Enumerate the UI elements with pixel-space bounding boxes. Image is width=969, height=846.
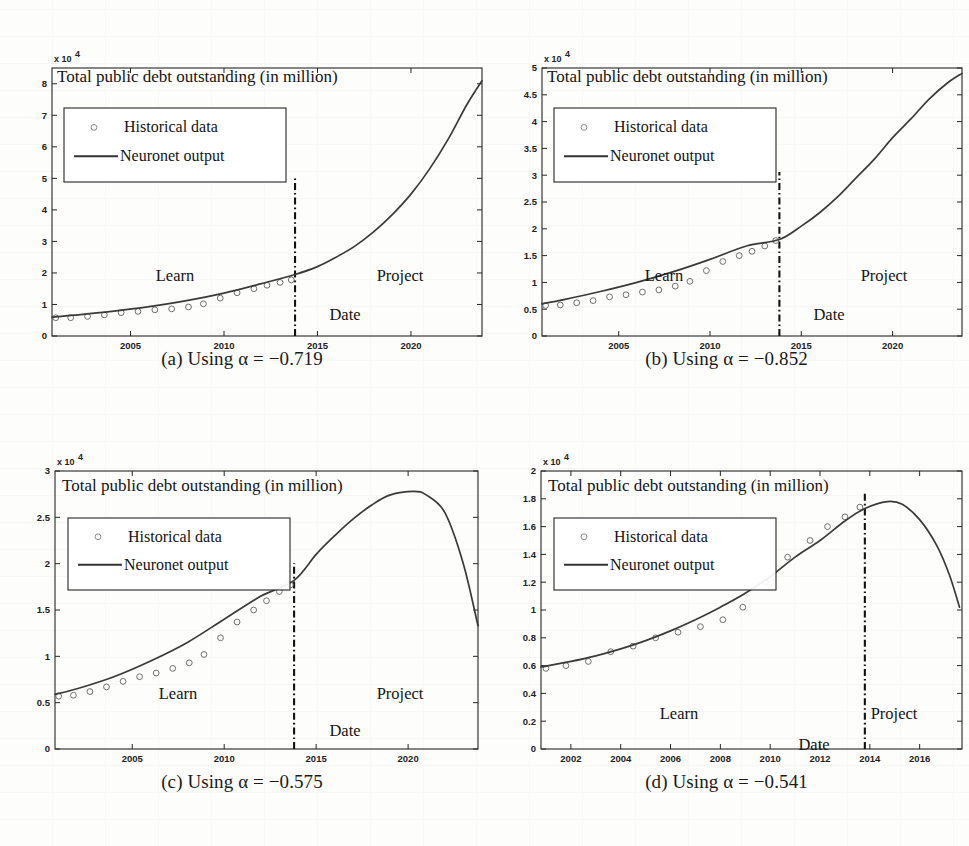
svg-text:4: 4: [78, 452, 83, 462]
data-point: [675, 629, 681, 635]
legend-label-neuronet: Neuronet output: [120, 147, 225, 165]
x-tick-label: 2012: [809, 753, 830, 764]
y-tick-label: 0.5: [37, 697, 51, 708]
data-point: [186, 660, 192, 666]
data-point: [557, 302, 563, 308]
svg-text:4: 4: [565, 49, 570, 59]
project-region-label: Project: [861, 266, 908, 285]
y-tick-label: 3.5: [524, 143, 538, 154]
data-point: [574, 300, 580, 306]
y-tick-label: 0: [532, 330, 537, 341]
caption-d: (d) Using α = −0.541: [484, 771, 969, 793]
date-axis-label: Date: [813, 305, 844, 324]
y-tick-label: 5: [42, 173, 48, 184]
learn-region-label: Learn: [645, 266, 683, 285]
x-tick-label: 2016: [909, 753, 930, 764]
chart-title: Total public debt outstanding (in millio…: [548, 476, 829, 495]
figure-grid: 0123456782005201020152020x 104Total publ…: [0, 0, 969, 846]
x-tick-label: 2010: [760, 753, 781, 764]
x-tick-label: 2020: [398, 753, 419, 764]
y-axis-exponent-label: x 104: [543, 452, 569, 467]
legend-label-neuronet: Neuronet output: [610, 556, 715, 574]
y-tick-label: 1.6: [523, 521, 536, 532]
y-axis-exponent-label: x 104: [54, 49, 80, 64]
legend-label-historical: Historical data: [614, 528, 708, 545]
data-point: [585, 659, 591, 665]
data-point: [170, 665, 176, 671]
svg-text:x 10: x 10: [544, 54, 562, 64]
data-point: [656, 287, 662, 293]
date-axis-label: Date: [329, 721, 360, 740]
learn-region-label: Learn: [159, 684, 197, 703]
data-point: [87, 689, 93, 695]
y-tick-label: 4: [42, 204, 48, 215]
panel-d: 00.20.40.60.811.21.41.61.822002200420062…: [484, 423, 969, 846]
data-point: [762, 243, 768, 249]
data-point: [277, 280, 283, 286]
data-point: [288, 277, 294, 283]
data-point: [153, 670, 159, 676]
data-point: [607, 294, 613, 300]
data-point: [590, 298, 596, 304]
data-point: [104, 684, 110, 690]
y-tick-label: 2.5: [37, 512, 51, 523]
data-point: [201, 652, 207, 658]
y-tick-label: 1.8: [523, 493, 536, 504]
chart-legend: Historical dataNeuronet output: [64, 108, 286, 182]
panel-c: 00.511.522.532005201020152020x 104Total …: [0, 423, 484, 846]
data-point: [740, 604, 746, 610]
data-point: [698, 624, 704, 630]
data-point: [234, 619, 240, 625]
plot-a: 0123456782005201020152020x 104Total publ…: [0, 0, 484, 360]
chart-title: Total public debt outstanding (in millio…: [62, 476, 343, 495]
chart-legend: Historical dataNeuronet output: [554, 108, 776, 182]
x-tick-label: 2008: [710, 753, 731, 764]
panel-b: 00.511.522.533.544.552005201020152020x 1…: [484, 0, 969, 423]
data-point: [217, 295, 223, 301]
y-tick-label: 8: [42, 78, 47, 89]
y-tick-label: 1.5: [524, 250, 538, 261]
y-tick-label: 3: [532, 170, 537, 181]
chart-legend: Historical dataNeuronet output: [68, 518, 290, 590]
y-tick-label: 1: [42, 299, 48, 310]
x-tick-label: 2004: [610, 753, 632, 764]
data-point: [137, 674, 143, 680]
data-point: [720, 259, 726, 265]
legend-label-neuronet: Neuronet output: [610, 147, 715, 165]
date-axis-label: Date: [329, 305, 360, 324]
chart-c: 00.511.522.532005201020152020x 104Total …: [0, 423, 484, 783]
learn-region-label: Learn: [156, 266, 194, 285]
x-tick-label: 2015: [306, 753, 328, 764]
data-point: [640, 289, 646, 295]
panel-a: 0123456782005201020152020x 104Total publ…: [0, 0, 484, 423]
legend-label-historical: Historical data: [128, 528, 222, 545]
chart-legend: Historical dataNeuronet output: [554, 518, 776, 590]
caption-b: (b) Using α = −0.852: [484, 348, 969, 370]
data-point: [186, 304, 192, 310]
data-point: [201, 301, 207, 307]
svg-text:x 10: x 10: [54, 54, 72, 64]
legend-label-historical: Historical data: [124, 118, 218, 135]
historical-data-markers: [56, 582, 294, 699]
project-region-label: Project: [871, 704, 918, 723]
data-point: [825, 524, 831, 530]
y-axis-exponent-label: x 104: [57, 452, 83, 467]
data-point: [70, 692, 76, 698]
y-tick-label: 0: [531, 743, 536, 754]
plot-c: 00.511.522.532005201020152020x 104Total …: [0, 423, 484, 783]
y-tick-label: 3: [42, 236, 47, 247]
svg-text:x 10: x 10: [543, 457, 561, 467]
y-tick-label: 0: [45, 743, 50, 754]
y-tick-label: 0.5: [524, 304, 538, 315]
x-tick-label: 2014: [859, 753, 881, 764]
y-tick-label: 2: [42, 267, 47, 278]
y-tick-label: 3: [45, 465, 50, 476]
data-point: [785, 554, 791, 560]
project-region-label: Project: [377, 684, 424, 703]
chart-d: 00.20.40.60.811.21.41.61.822002200420062…: [484, 423, 969, 783]
y-tick-label: 4.5: [524, 89, 538, 100]
data-point: [720, 617, 726, 623]
y-tick-label: 0.6: [523, 660, 536, 671]
plot-b: 00.511.522.533.544.552005201020152020x 1…: [484, 0, 969, 360]
y-tick-label: 1: [532, 277, 538, 288]
